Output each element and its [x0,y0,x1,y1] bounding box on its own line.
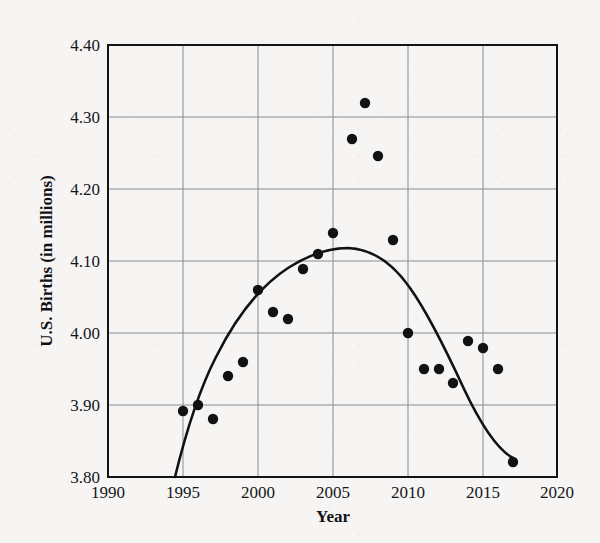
data-point [448,378,458,388]
regression-curve [175,248,513,477]
data-point [493,364,503,374]
data-point [268,307,278,317]
y-tick-label: 3.90 [70,396,100,415]
data-point [403,328,413,338]
data-point [178,406,188,416]
x-tick-labels: 1990 1995 2000 2005 2010 2015 2020 [91,483,574,502]
data-point [298,264,308,274]
data-point [313,249,323,259]
x-tick-label: 2020 [540,483,574,502]
chart-figure: 4.40 4.30 4.20 4.10 4.00 3.90 3.80 1990 … [0,0,600,543]
data-point [328,228,338,238]
y-tick-label: 4.30 [70,108,100,127]
x-axis-title: Year [316,507,350,526]
data-point [283,314,293,324]
x-tick-label: 1990 [91,483,125,502]
data-point [373,151,383,161]
data-point [193,400,203,410]
data-point [238,357,248,367]
scatter-points [178,98,518,467]
data-point [347,134,357,144]
chart-svg: 4.40 4.30 4.20 4.10 4.00 3.90 3.80 1990 … [0,0,600,543]
x-tick-label: 2000 [241,483,275,502]
x-tick-label: 2005 [316,483,350,502]
x-tick-label: 2010 [391,483,425,502]
data-point [508,457,518,467]
data-point [253,285,263,295]
y-axis-title: U.S. Births (in millions) [37,175,56,346]
data-point [434,364,444,374]
y-tick-label: 4.10 [70,252,100,271]
data-point [208,414,218,424]
x-tick-label: 1995 [166,483,200,502]
data-point [223,371,233,381]
data-point [388,235,398,245]
y-tick-label: 4.20 [70,180,100,199]
data-point [360,98,370,108]
data-point [463,336,473,346]
x-tick-label: 2015 [466,483,500,502]
y-tick-label: 4.40 [70,36,100,55]
data-point [478,343,488,353]
y-tick-labels: 4.40 4.30 4.20 4.10 4.00 3.90 3.80 [70,36,100,487]
data-point [419,364,429,374]
y-tick-label: 4.00 [70,324,100,343]
